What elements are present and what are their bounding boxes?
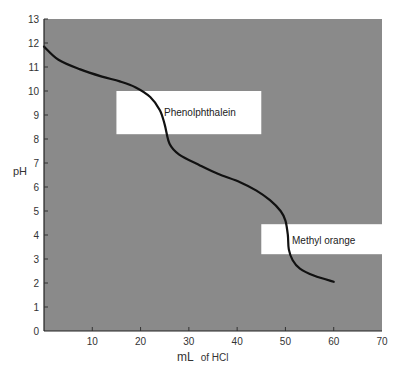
y-tick-label: 5	[33, 206, 39, 217]
y-tick-label: 12	[28, 38, 40, 49]
x-axis-title-suffix: of HCl	[201, 352, 229, 363]
x-tick-label: 70	[376, 336, 388, 347]
x-tick-label: 50	[280, 336, 292, 347]
x-axis-title: mL of HCl	[177, 350, 229, 364]
x-tick-label: 40	[232, 336, 244, 347]
y-tick-label: 4	[33, 230, 39, 241]
y-tick-label: 2	[33, 278, 39, 289]
indicator-label-methyl-orange: Methyl orange	[292, 235, 356, 246]
y-axis-title: pH	[13, 165, 27, 177]
titration-chart: PhenolphthaleinMethyl orange 01234567891…	[0, 0, 401, 374]
y-tick-label: 3	[33, 254, 39, 265]
y-tick-label: 7	[33, 158, 39, 169]
plot-area	[44, 19, 382, 331]
indicator-label-phenolphthalein: Phenolphthalein	[164, 107, 236, 118]
y-tick-label: 13	[28, 14, 40, 25]
x-tick-label: 60	[328, 336, 340, 347]
y-tick-label: 9	[33, 110, 39, 121]
y-tick-label: 1	[33, 302, 39, 313]
y-tick-label: 10	[28, 86, 40, 97]
x-tick-label: 10	[87, 336, 99, 347]
y-tick-label: 11	[29, 62, 40, 73]
x-tick-label: 30	[183, 336, 195, 347]
x-axis-title-main: mL	[177, 350, 194, 364]
x-tick-label: 20	[135, 336, 147, 347]
y-tick-label: 8	[33, 134, 39, 145]
y-tick-label: 6	[33, 182, 39, 193]
y-tick-label: 0	[33, 326, 39, 337]
